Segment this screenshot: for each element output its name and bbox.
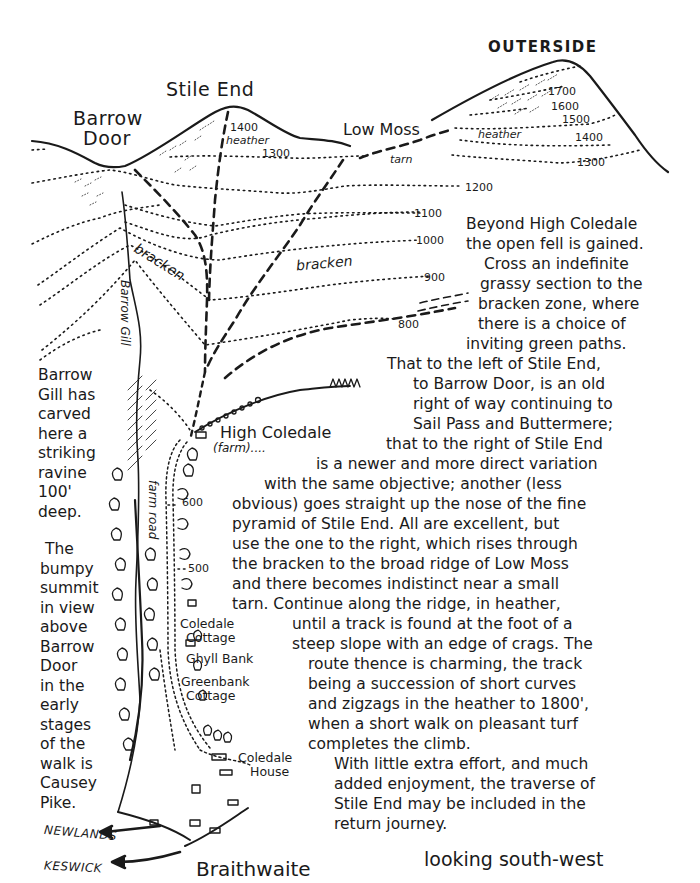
description-line: obvious) goes straight up the nose of th… — [232, 495, 586, 515]
description-line: Sail Pass and Buttermere; — [413, 415, 613, 435]
description-line: With little extra effort, and much — [334, 755, 588, 775]
description-line: Cross an indefinite — [484, 255, 629, 275]
description-line: when a short walk on pleasant turf — [308, 715, 578, 735]
description-line: return journey. — [334, 815, 447, 835]
description-line: the bracken to the broad ridge of Low Mo… — [232, 555, 569, 575]
description-line: is a newer and more direct variation — [316, 455, 598, 475]
description-line: Stile End may be included in the — [334, 795, 586, 815]
description-line: use the one to the right, which rises th… — [232, 535, 578, 555]
description-line: route thence is charming, the track — [308, 655, 582, 675]
description-line: added enjoyment, the traverse of — [334, 775, 595, 795]
description-line: the open fell is gained. — [466, 235, 644, 255]
description-line: with the same objective; another (less — [264, 475, 562, 495]
description-line: pyramid of Stile End. All are excellent,… — [232, 515, 559, 535]
description-line: that to the right of Stile End — [386, 435, 603, 455]
description-line: bracken zone, where — [478, 295, 639, 315]
description-line: inviting green paths. — [466, 335, 627, 355]
description-line: and zigzags in the heather to 1800', — [308, 695, 589, 715]
description-line: right of way continuing to — [413, 395, 613, 415]
description-line: completes the climb. — [308, 735, 471, 755]
description-line: grassy section to the — [480, 275, 643, 295]
route-description: Beyond High Coledale the open fell is ga… — [0, 0, 700, 883]
description-line: there is a choice of — [478, 315, 626, 335]
description-line: until a track is found at the foot of a — [292, 615, 572, 635]
description-line: to Barrow Door, is an old — [413, 375, 605, 395]
description-line: Beyond High Coledale — [466, 215, 637, 235]
description-line: and there becomes indistinct near a smal… — [232, 575, 559, 595]
description-line: tarn. Continue along the ridge, in heath… — [232, 595, 561, 615]
description-line: That to the left of Stile End, — [387, 355, 601, 375]
description-line: being a succession of short curves — [308, 675, 576, 695]
orientation-note: looking south-west — [424, 848, 603, 870]
description-line: steep slope with an edge of crags. The — [292, 635, 593, 655]
